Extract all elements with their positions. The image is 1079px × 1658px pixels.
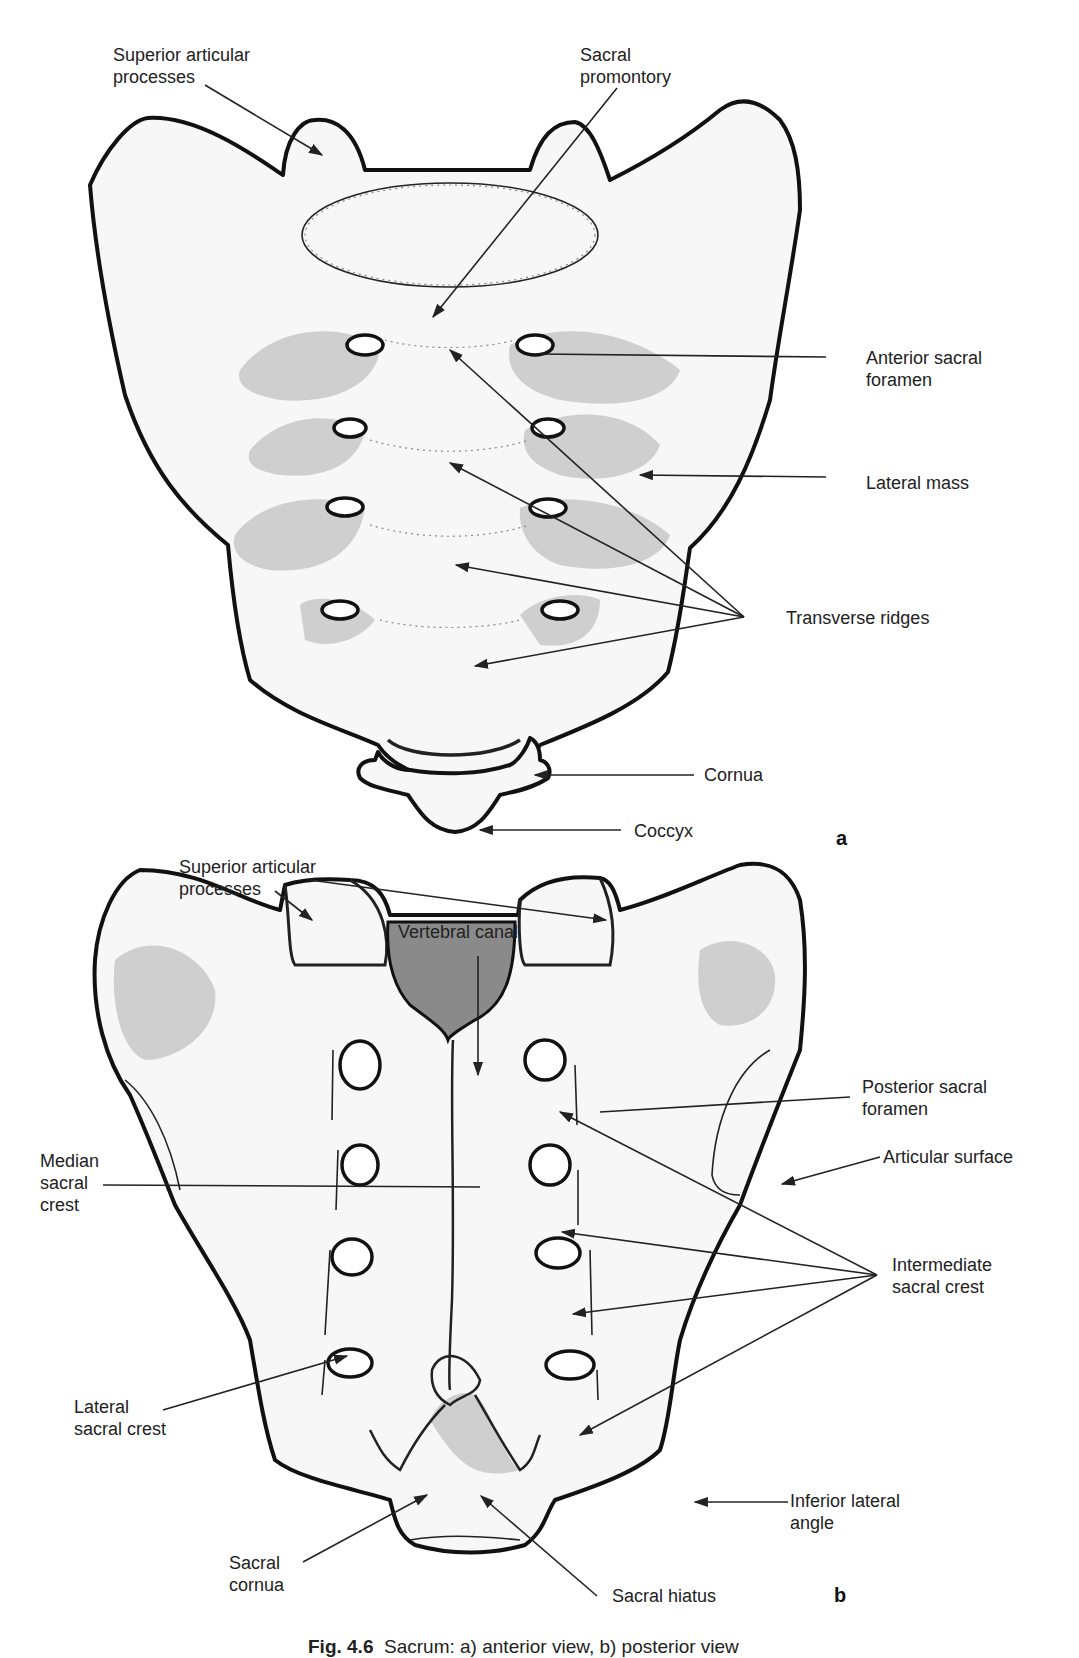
label-vertebral-canal: Vertebral canal [398,921,518,943]
label-lateral-sacral-crest: Lateral sacral crest [74,1396,166,1440]
label-anterior-sacral-foramen: Anterior sacral foramen [866,347,982,391]
figure-caption-text: Sacrum: a) anterior view, b) posterior v… [384,1636,739,1657]
panel-label-a: a [836,827,847,850]
label-superior-articular-processes-b: Superior articular processes [179,856,316,900]
label-coccyx: Coccyx [634,820,693,842]
panel-label-b: b [834,1584,846,1607]
label-posterior-sacral-foramen: Posterior sacral foramen [862,1076,987,1120]
figure-number: Fig. 4.6 [308,1636,373,1657]
label-transverse-ridges: Transverse ridges [786,607,929,629]
label-cornua: Cornua [704,764,763,786]
posterior-view-drawing [95,864,805,1553]
label-sacral-promontory: Sacral promontory [580,44,671,88]
label-articular-surface: Articular surface [883,1146,1013,1168]
label-lateral-mass: Lateral mass [866,472,969,494]
label-inferior-lateral-angle: Inferior lateral angle [790,1490,900,1534]
label-sacral-cornua: Sacral cornua [229,1552,284,1596]
label-intermediate-sacral-crest: Intermediate sacral crest [892,1254,992,1298]
label-median-sacral-crest: Median sacral crest [40,1150,99,1216]
label-superior-articular-processes-a: Superior articular processes [113,44,250,88]
label-sacral-hiatus: Sacral hiatus [612,1585,716,1607]
anterior-view-drawing [90,101,800,832]
figure-caption: Fig. 4.6 Sacrum: a) anterior view, b) po… [308,1636,739,1658]
